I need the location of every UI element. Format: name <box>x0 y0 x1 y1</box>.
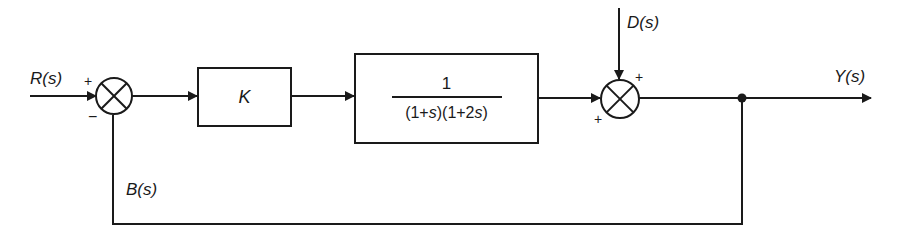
controller-gain: K <box>238 87 251 107</box>
disturbance-label: D(s) <box>627 13 659 32</box>
sum2-plus-sign-top: + <box>635 69 643 85</box>
output-label: Y(s) <box>834 67 865 86</box>
plant-block: 1 (1+s)(1+2s) <box>355 54 538 143</box>
sum2-plus-sign-left: + <box>594 111 602 127</box>
output-signal: Y(s) <box>639 67 871 98</box>
sum1-plus-sign: + <box>84 73 92 89</box>
block-diagram: R(s) + − K 1 (1+s)(1+2s) D(s) + + <box>0 0 902 244</box>
sum1-minus-sign: − <box>88 108 97 125</box>
controller-block: K <box>198 68 291 126</box>
input-label: R(s) <box>30 69 62 88</box>
transfer-function-denominator: (1+s)(1+2s) <box>405 104 488 121</box>
feedback-label: B(s) <box>126 180 157 199</box>
plant-box <box>355 54 538 143</box>
summing-junction-1: + − <box>84 73 132 125</box>
transfer-function-numerator: 1 <box>442 74 451 93</box>
